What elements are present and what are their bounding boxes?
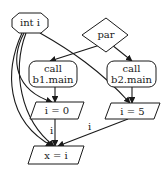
edge-int-i-to-x-inner bbox=[19, 33, 54, 146]
flow-diagram: int i par call b1.main call b2.main i = … bbox=[0, 0, 166, 172]
node-i0-shape[interactable] bbox=[30, 102, 84, 119]
node-int-i-shape[interactable] bbox=[12, 13, 48, 33]
node-call-b2-shape[interactable] bbox=[107, 61, 156, 87]
node-call-b1-shape[interactable] bbox=[29, 61, 77, 87]
node-par-shape[interactable] bbox=[82, 18, 128, 52]
edge-i5-to-x bbox=[58, 119, 128, 146]
edge-par-to-call-b2 bbox=[112, 45, 132, 61]
edge-par-to-call-b1 bbox=[50, 45, 100, 61]
diagram-canvas bbox=[0, 0, 166, 172]
node-i5-shape[interactable] bbox=[105, 103, 160, 119]
node-x-shape[interactable] bbox=[28, 146, 84, 164]
